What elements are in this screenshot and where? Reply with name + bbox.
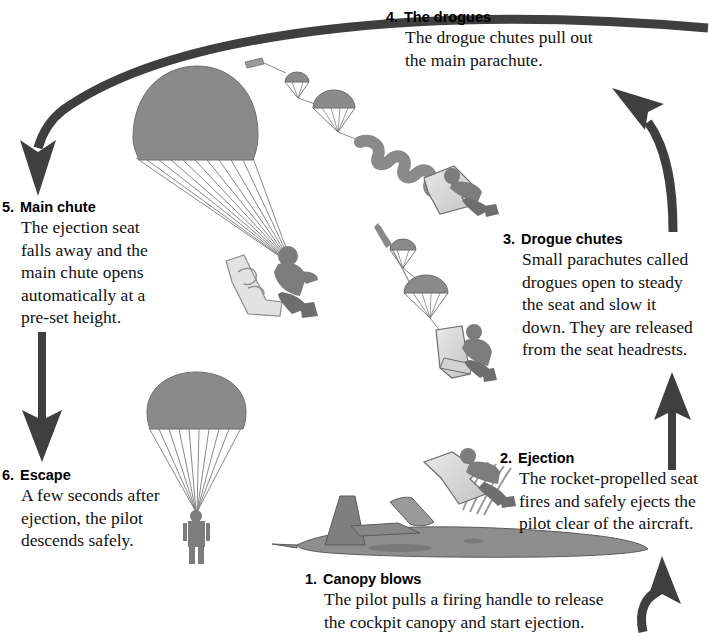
caption-step-4-line-2: the main parachute.	[405, 49, 593, 72]
caption-step-6: 6.Escape A few seconds after ejection, t…	[2, 466, 160, 552]
caption-step-4-title: The drogues	[404, 9, 491, 25]
caption-step-6-heading: 6.Escape	[2, 466, 160, 484]
arrow-step4-to-step5	[20, 19, 708, 196]
caption-step-2-title: Ejection	[518, 450, 574, 466]
caption-step-5-line-5: pre-set height.	[21, 306, 148, 329]
caption-step-2-line-3: pilot clear of the aircraft.	[519, 512, 698, 535]
caption-step-4-number: 4.	[386, 8, 404, 26]
caption-step-4-line-1: The drogue chutes pull out	[405, 26, 593, 49]
caption-step-1-body: The pilot pulls a firing handle to relea…	[305, 588, 603, 633]
caption-step-6-line-2: ejection, the pilot	[21, 507, 160, 530]
caption-step-2-number: 2.	[500, 449, 518, 467]
caption-step-3-heading: 3.Drogue chutes	[503, 230, 693, 248]
caption-step-3-line-4: down. They are released	[522, 316, 693, 339]
caption-step-3-line-3: the seat and slow it	[522, 293, 693, 316]
caption-step-4-body: The drogue chutes pull out the main para…	[386, 26, 593, 71]
caption-step-5-line-4: automatically at a	[21, 284, 148, 307]
illustration-step-3-drogue-chutes	[374, 223, 497, 382]
caption-step-5-line-3: main chute opens	[21, 261, 148, 284]
caption-step-5-line-1: The ejection seat	[21, 216, 148, 239]
caption-step-3-body: Small parachutes called drogues open to …	[503, 248, 693, 361]
caption-step-6-line-3: descends safely.	[21, 529, 160, 552]
caption-step-3-number: 3.	[503, 230, 521, 248]
illustration-step-5-main-chute	[133, 66, 318, 318]
caption-step-1: 1.Canopy blows The pilot pulls a firing …	[305, 570, 603, 633]
arrow-step3-to-step4	[612, 88, 673, 232]
illustration-step-4-drogues-pull-main	[245, 58, 499, 217]
caption-step-3-line-1: Small parachutes called	[522, 248, 693, 271]
caption-step-1-heading: 1.Canopy blows	[305, 570, 603, 588]
caption-step-5-body: The ejection seat falls away and the mai…	[2, 216, 148, 329]
caption-step-3-title: Drogue chutes	[521, 231, 623, 247]
arrow-step5-to-step6	[22, 332, 62, 462]
caption-step-5-line-2: falls away and the	[21, 239, 148, 262]
illustration-step-6-descending-pilot	[147, 372, 246, 564]
caption-step-2-body: The rocket-propelled seat fires and safe…	[500, 467, 698, 535]
caption-step-4: 4.The drogues The drogue chutes pull out…	[386, 8, 593, 71]
caption-step-2-line-2: fires and safely ejects the	[519, 490, 698, 513]
caption-step-3-line-5: from the seat headrests.	[522, 338, 693, 361]
caption-step-6-title: Escape	[20, 467, 71, 483]
caption-step-2-line-1: The rocket-propelled seat	[519, 467, 698, 490]
seat-with-pilot-step4	[424, 166, 499, 217]
caption-step-5-heading: 5.Main chute	[2, 198, 148, 216]
caption-step-1-line-1: The pilot pulls a firing handle to relea…	[324, 588, 603, 611]
caption-step-1-line-2: the cockpit canopy and start ejection.	[324, 611, 603, 633]
caption-step-5-title: Main chute	[20, 199, 96, 215]
caption-step-3-line-2: drogues open to steady	[522, 271, 693, 294]
caption-step-1-number: 1.	[305, 570, 323, 588]
caption-step-6-line-1: A few seconds after	[21, 484, 160, 507]
caption-step-2-heading: 2.Ejection	[500, 449, 698, 467]
caption-step-1-title: Canopy blows	[323, 571, 421, 587]
caption-step-6-body: A few seconds after ejection, the pilot …	[2, 484, 160, 552]
caption-step-4-heading: 4.The drogues	[386, 8, 593, 26]
caption-step-6-number: 6.	[2, 466, 20, 484]
caption-step-5: 5.Main chute The ejection seat falls awa…	[2, 198, 148, 329]
diagram-canvas: 4.The drogues The drogue chutes pull out…	[0, 0, 709, 633]
caption-step-5-number: 5.	[2, 198, 20, 216]
arrow-step1-to-step2	[642, 556, 681, 632]
caption-step-2: 2.Ejection The rocket-propelled seat fir…	[500, 449, 698, 535]
caption-step-3: 3.Drogue chutes Small parachutes called …	[503, 230, 693, 361]
